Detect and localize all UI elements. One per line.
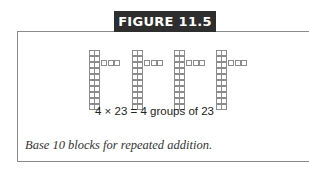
unit-cube [186, 60, 192, 66]
unit-cube [157, 60, 163, 66]
unit-cube [199, 60, 205, 66]
figure-caption: Base 10 blocks for repeated addition. [25, 138, 212, 153]
unit-cube [101, 60, 107, 66]
unit-cube [114, 60, 120, 66]
unit-cube [108, 60, 114, 66]
unit-cube [193, 60, 199, 66]
unit-cube [228, 60, 234, 66]
figure-label: FIGURE 11.5 [114, 11, 216, 32]
tens-rod [221, 50, 226, 110]
unit-cube [144, 60, 150, 66]
tens-rod [137, 50, 142, 110]
tens-rod [94, 50, 99, 110]
unit-cube [241, 60, 247, 66]
unit-cube [151, 60, 157, 66]
figure-equation: 4 × 23 = 4 groups of 23 [0, 105, 309, 117]
tens-rod [179, 50, 184, 110]
unit-cube [235, 60, 241, 66]
